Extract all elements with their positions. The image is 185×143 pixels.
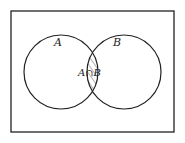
venn-diagram: A B A∩B xyxy=(0,0,185,143)
intersection-label: A∩B xyxy=(77,67,101,78)
set-b-label: B xyxy=(112,36,121,49)
set-a-label: A xyxy=(53,36,62,49)
